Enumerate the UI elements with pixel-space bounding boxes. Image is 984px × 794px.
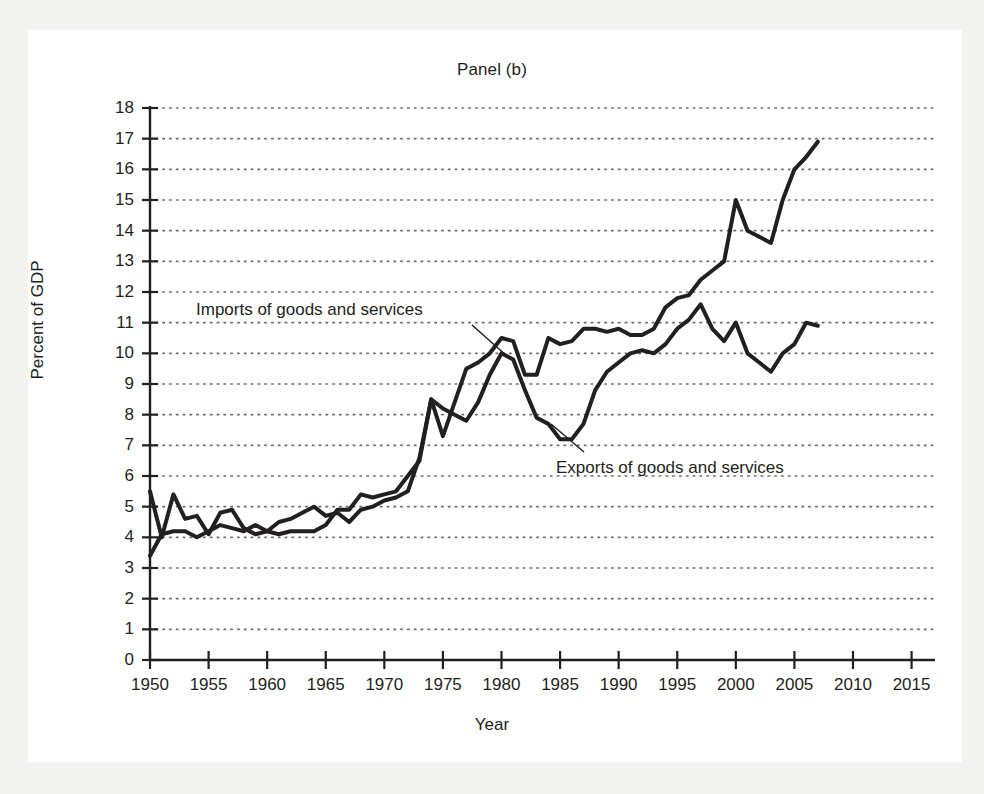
gridlines xyxy=(156,108,935,629)
axis-ticks xyxy=(142,108,912,669)
chart-figure: Panel (b) Percent of GDP Year 0123456789… xyxy=(0,0,984,794)
y-axis-label: Percent of GDP xyxy=(28,220,48,420)
y-tick-label: 7 xyxy=(94,436,134,453)
y-tick-label: 10 xyxy=(94,344,134,361)
y-tick-label: 1 xyxy=(94,620,134,637)
y-tick-label: 18 xyxy=(94,99,134,116)
y-tick-label: 17 xyxy=(94,130,134,147)
x-axis-label: Year xyxy=(0,715,984,735)
y-tick-label: 12 xyxy=(94,283,134,300)
y-tick-label: 3 xyxy=(94,559,134,576)
y-tick-label: 13 xyxy=(94,252,134,269)
y-tick-label: 9 xyxy=(94,375,134,392)
y-tick-label: 8 xyxy=(94,406,134,423)
series-line-exports xyxy=(150,304,818,537)
series-line-imports xyxy=(150,142,818,556)
y-tick-label: 4 xyxy=(94,528,134,545)
annotation-exports: Exports of goods and services xyxy=(556,458,784,478)
y-tick-label: 11 xyxy=(94,314,134,331)
y-tick-label: 2 xyxy=(94,590,134,607)
y-tick-label: 15 xyxy=(94,191,134,208)
annotation-imports: Imports of goods and services xyxy=(196,300,423,320)
y-tick-label: 5 xyxy=(94,498,134,515)
y-tick-label: 14 xyxy=(94,222,134,239)
data-series xyxy=(150,142,818,556)
y-tick-label: 0 xyxy=(94,651,134,668)
chart-title: Panel (b) xyxy=(0,60,984,80)
axis-frame xyxy=(150,106,935,660)
y-tick-label: 16 xyxy=(94,160,134,177)
y-tick-label: 6 xyxy=(94,467,134,484)
x-tick-label: 2015 xyxy=(877,676,947,693)
